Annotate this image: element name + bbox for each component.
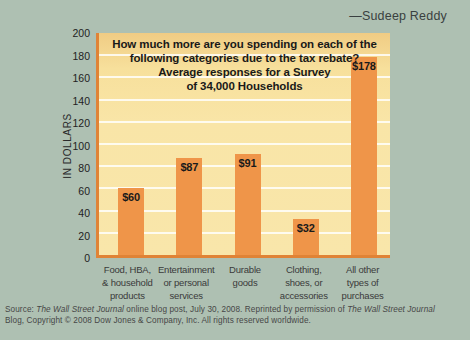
y-tick-label: 60: [56, 185, 90, 197]
y-axis-tick-labels: 200180160140120100806040200: [56, 33, 90, 258]
category-label: All othertypes ofpurchases: [333, 263, 392, 302]
gridline: [99, 121, 390, 123]
source-note: Source: The Wall Street Journal online b…: [5, 305, 465, 327]
byline: —Sudeep Reddy: [349, 9, 447, 23]
y-tick-label: 160: [56, 72, 90, 84]
source-journal-name: The Wall Street Journal: [347, 305, 435, 314]
category-label: Clothing,shoes, oraccessories: [274, 263, 333, 302]
plot-area: How much more are you spending on each o…: [96, 33, 390, 258]
gridline: [99, 99, 390, 101]
y-tick-label: 200: [56, 27, 90, 39]
y-tick-label: 80: [56, 162, 90, 174]
bar-2: [235, 154, 261, 255]
x-axis-category-labels: Food, HBA,& householdproductsEntertainme…: [98, 263, 392, 302]
y-tick-label: 40: [56, 207, 90, 219]
y-tick-label: 140: [56, 95, 90, 107]
bar-value-label: $60: [108, 191, 154, 203]
source-text: Blog, Copyright © 2008 Dow Jones & Compa…: [5, 316, 311, 325]
y-tick-label: 180: [56, 50, 90, 62]
bar-value-label: $87: [166, 161, 212, 173]
y-tick-label: 120: [56, 117, 90, 129]
bar-value-label: $178: [341, 60, 387, 72]
source-text: online blog post, July 30, 2008. Reprint…: [124, 305, 347, 314]
category-label: Durablegoods: [216, 263, 275, 302]
category-label: Food, HBA,& householdproducts: [98, 263, 157, 302]
source-journal-name: The Wall Street Journal: [36, 305, 124, 314]
chart-title-line: of 34,000 Households: [99, 79, 390, 93]
y-tick-label: 0: [56, 252, 90, 264]
bar-value-label: $91: [225, 157, 271, 169]
y-tick-label: 20: [56, 230, 90, 242]
source-text: Source:: [5, 305, 36, 314]
y-tick-label: 100: [56, 140, 90, 152]
chart-title-line: How much more are you spending on each o…: [99, 37, 390, 51]
bar-value-label: $32: [283, 222, 329, 234]
category-label: Entertainmentor personalservices: [157, 263, 216, 302]
figure-panel: —Sudeep Reddy IN DOLLARS 200180160140120…: [0, 0, 470, 340]
gridline: [99, 143, 390, 145]
